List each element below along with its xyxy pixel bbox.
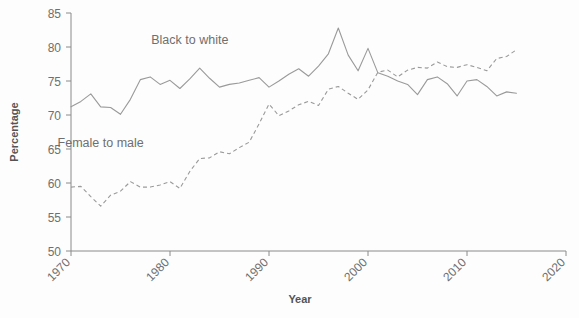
y-axis-title: Percentage [8, 102, 20, 161]
y-axis-ticks: 5055606570758085 [48, 7, 71, 259]
series-female-to-male-line [71, 50, 517, 206]
x-axis-title: Year [288, 293, 312, 305]
y-tick-label: 60 [48, 177, 62, 191]
y-tick-label: 50 [48, 245, 62, 259]
x-axis-ticks: 197019801990200020102020 [44, 251, 568, 284]
x-tick-label: 1990 [242, 255, 271, 284]
x-tick-label: 2000 [341, 255, 370, 284]
line-chart: 5055606570758085 19701980199020002010202… [0, 0, 579, 318]
x-tick-label: 1970 [44, 255, 73, 284]
y-tick-label: 75 [48, 75, 62, 89]
x-tick-label: 2010 [440, 255, 469, 284]
y-tick-label: 70 [48, 109, 62, 123]
chart-container: 5055606570758085 19701980199020002010202… [0, 0, 579, 318]
x-tick-label: 2020 [539, 255, 568, 284]
y-tick-label: 85 [48, 7, 62, 21]
series-label-black-to-white: Black to white [151, 33, 228, 47]
y-tick-label: 55 [48, 211, 62, 225]
y-tick-label: 80 [48, 41, 62, 55]
series-black-to-white-line [71, 28, 517, 114]
x-tick-label: 1980 [143, 255, 172, 284]
series-label-female-to-male: Female to male [58, 136, 144, 150]
